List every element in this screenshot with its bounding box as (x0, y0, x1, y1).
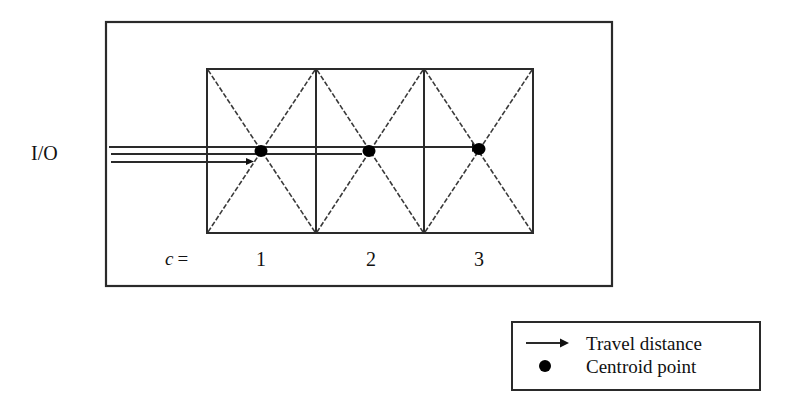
legend-label: Travel distance (586, 333, 702, 355)
centroid-point-cell-1 (255, 145, 268, 157)
centroid-point-cell-2 (363, 145, 376, 157)
cell-number-1: 1 (246, 249, 276, 269)
cell-index-equals: = (177, 248, 188, 269)
centroid-point-cell-3 (473, 143, 486, 155)
travel-paths (109, 147, 472, 162)
cell-index-variable: c (165, 248, 173, 269)
cell-number-2: 2 (356, 249, 386, 269)
legend-item-centroid-point: Centroid point (513, 354, 759, 378)
cell-index-label: c= (165, 249, 188, 268)
legend-label: Centroid point (586, 356, 696, 378)
centroid-dot-icon (523, 356, 573, 376)
legend: Travel distance Centroid point (511, 321, 761, 391)
io-point-label: I/O (31, 143, 58, 163)
arrow-right-icon (523, 333, 573, 353)
legend-item-travel-distance: Travel distance (513, 331, 759, 355)
cell-number-3: 3 (464, 249, 494, 269)
